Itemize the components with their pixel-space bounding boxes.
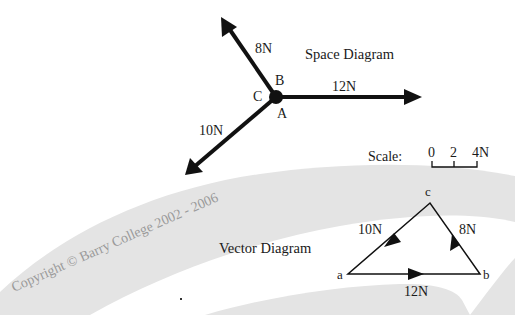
scale-tick-0: 0 — [428, 145, 435, 160]
scale-bar: Scale: 0 2 4N — [368, 145, 489, 167]
scale-tick-2: 2 — [450, 145, 457, 160]
force-label-10n: 10N — [199, 123, 223, 138]
side-label-10n: 10N — [358, 222, 382, 237]
arrowhead-icon — [404, 89, 422, 105]
point-label-b: B — [275, 73, 284, 88]
point-label-a: A — [277, 106, 288, 121]
side-label-8n: 8N — [459, 222, 476, 237]
vertex-label-b: b — [483, 267, 490, 282]
speck — [180, 298, 182, 300]
vector-diagram-title: Vector Diagram — [219, 240, 312, 256]
point-label-c: C — [253, 89, 262, 104]
side-label-12n: 12N — [404, 284, 428, 299]
vertex-label-a: a — [337, 267, 343, 282]
vertex-label-c: c — [425, 184, 431, 199]
scale-tick-4n: 4N — [472, 145, 489, 160]
force-label-8n: 8N — [255, 41, 272, 56]
diagram-canvas: Copyright © Barry College 2002 - 2006 8N… — [0, 0, 515, 315]
space-diagram-title: Space Diagram — [305, 46, 395, 62]
junction-point — [269, 90, 283, 104]
scale-label: Scale: — [368, 149, 402, 164]
force-label-12n: 12N — [332, 79, 356, 94]
